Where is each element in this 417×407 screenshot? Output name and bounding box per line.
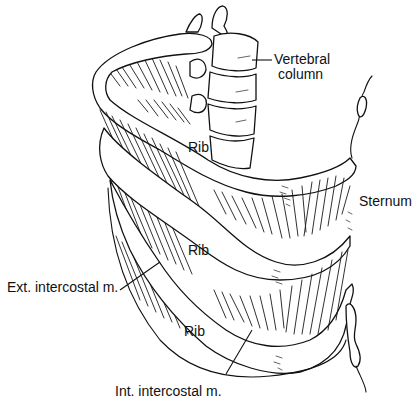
vertebral-label-line2: column	[274, 67, 330, 82]
rib-label-lower: Rib	[184, 324, 205, 339]
vertebral-column	[208, 33, 258, 168]
rib-label-upper: Rib	[188, 140, 209, 155]
ext-intercostal-label: Ext. intercostal m.	[7, 280, 118, 295]
thorax-diagram: Vertebral column Sternum Rib Rib Rib Ext…	[0, 0, 417, 407]
sternum-lower	[346, 304, 360, 367]
int-intercostal-label: Int. intercostal m.	[115, 384, 222, 399]
rib-cage-illustration	[0, 0, 417, 407]
rib-label-middle: Rib	[188, 243, 209, 258]
spinous-process-top	[212, 6, 227, 36]
spinous-process	[186, 14, 202, 32]
clavicular-notch	[357, 96, 366, 116]
rib-head-middle	[190, 94, 206, 112]
sternum-label: Sternum	[359, 194, 412, 209]
rib-head-upper	[190, 59, 206, 78]
vertebral-label-line1: Vertebral	[274, 52, 330, 67]
vertebral-column-label: Vertebral column	[274, 52, 330, 82]
